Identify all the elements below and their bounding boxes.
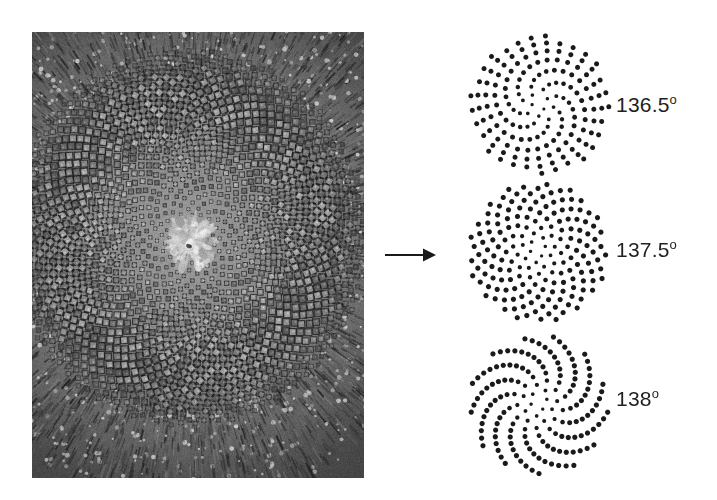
transform-arrow (383, 243, 437, 267)
angle-value-138: 138 (616, 387, 652, 410)
pattern-row-138: 138o (448, 325, 713, 485)
degree-symbol-138: o (652, 386, 659, 401)
phyllotaxis-diagram-137-5 (456, 176, 616, 331)
degree-symbol-137-5: o (670, 237, 677, 252)
pattern-row-137-5: 137.5o (448, 176, 713, 331)
angle-value-137-5: 137.5 (616, 238, 670, 261)
degree-symbol-136-5: o (670, 92, 677, 107)
sunflower-seed-head-photograph (32, 32, 364, 478)
phyllotaxis-diagram-136-5 (456, 28, 616, 183)
angle-label-138: 138o (616, 387, 716, 411)
figure-root: 136.5o 137.5o 138o (0, 0, 717, 500)
angle-label-137-5: 137.5o (616, 238, 716, 262)
phyllotaxis-diagram-138 (456, 325, 616, 480)
angle-value-136-5: 136.5 (616, 93, 670, 116)
angle-label-136-5: 136.5o (616, 93, 716, 117)
pattern-row-136-5: 136.5o (448, 28, 713, 183)
